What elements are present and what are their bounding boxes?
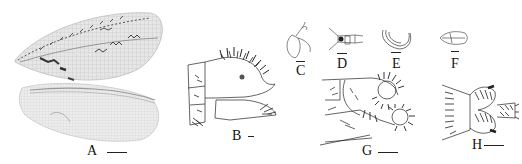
panel-h-drawing — [442, 85, 519, 140]
scale-bar-e — [391, 52, 401, 53]
panel-label-a: A — [87, 144, 97, 158]
panel-e-drawing — [382, 30, 410, 49]
figure-illustrations — [0, 0, 522, 164]
scale-bar-h — [484, 145, 504, 146]
scale-bar-c — [296, 61, 305, 62]
panel-label-h: H — [472, 138, 482, 152]
panel-d-drawing — [329, 28, 363, 50]
forewing — [15, 13, 162, 80]
panel-label-f: F — [451, 57, 459, 71]
scale-bar-f — [451, 51, 459, 52]
scale-bar-a — [107, 152, 127, 153]
panel-g-drawing — [320, 72, 415, 145]
hindwing — [19, 83, 158, 141]
panel-f-drawing — [440, 32, 467, 45]
panel-label-d: D — [337, 57, 347, 71]
panel-label-c: C — [296, 64, 305, 78]
panel-c-drawing — [287, 22, 310, 58]
scale-bar-g — [378, 152, 398, 153]
scale-bar-d — [337, 53, 347, 54]
panel-b-drawing — [188, 47, 276, 126]
scale-bar-b — [248, 136, 254, 137]
panel-label-b: B — [232, 129, 241, 143]
panel-label-e: E — [392, 57, 401, 71]
panel-label-g: G — [362, 144, 372, 158]
